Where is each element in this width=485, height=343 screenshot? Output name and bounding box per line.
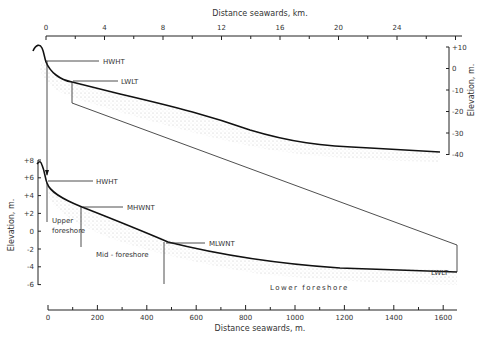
top-x-tick-label: 12 — [217, 24, 226, 32]
upper-foreshore-label: foreshore — [52, 227, 85, 235]
top-x-tick-label: 4 — [102, 24, 107, 32]
bottom-x-tick-label: 400 — [140, 314, 153, 322]
bottom-x-ticks: 02004006008001000120014001600 — [46, 305, 452, 322]
bottom-x-tick-label: 1000 — [286, 314, 304, 322]
top-y-tick-label: -20 — [452, 108, 463, 116]
top-x-tick-label: 24 — [393, 24, 402, 32]
top-x-tick-label: 16 — [276, 24, 285, 32]
mid-foreshore-label: Mid - foreshore — [96, 251, 149, 259]
bottom-x-tick-label: 800 — [239, 314, 252, 322]
top-x-tick-label: 0 — [44, 24, 48, 32]
bottom-x-tick-label: 0 — [46, 314, 50, 322]
top-y-tick-label: -40 — [452, 151, 463, 159]
bottom-y-tick-label: +4 — [24, 192, 35, 200]
beach-profile-diagram: Distance seawards, km. 04812162024 +100-… — [0, 0, 485, 343]
bottom-y-tick-label: -2 — [27, 246, 34, 254]
bottom-y-tick-label: -4 — [27, 263, 35, 271]
bottom-y-tick-label: +2 — [24, 210, 34, 218]
top-x-tick-label: 20 — [334, 24, 343, 32]
top-x-axis-title: Distance seawards, km. — [212, 9, 307, 18]
top-hwht-label: HWHT — [103, 58, 125, 66]
top-y-tick-label: -30 — [452, 130, 463, 138]
top-y-tick-label: +10 — [452, 44, 467, 52]
top-y-tick-label: -10 — [452, 87, 463, 95]
upper-label: Upper — [52, 217, 73, 225]
top-sediment-stipple — [40, 60, 440, 162]
bottom-hwht-label: HWHT — [96, 178, 118, 186]
top-x-ticks: 04812162024 — [44, 24, 456, 40]
bottom-x-tick-label: 1200 — [335, 314, 353, 322]
bottom-x-tick-label: 1600 — [434, 314, 452, 322]
bottom-x-axis-title: Distance seawards, m. — [215, 324, 306, 333]
bottom-y-tick-label: +8 — [24, 157, 34, 165]
bottom-x-tick-label: 1400 — [385, 314, 403, 322]
bottom-x-tick-label: 200 — [91, 314, 104, 322]
top-lwlt-label: LWLT — [121, 78, 139, 86]
bottom-y-tick-label: +6 — [24, 174, 35, 182]
mhwnt-label: MHWNT — [127, 204, 155, 212]
top-x-tick-label: 8 — [161, 24, 165, 32]
bottom-x-tick-label: 600 — [190, 314, 203, 322]
top-y-axis-title: Elevation, m. — [467, 64, 476, 117]
bottom-y-axis-title: Elevation, m. — [7, 199, 16, 252]
lower-foreshore-label: Lower foreshore — [270, 284, 349, 292]
bottom-y-tick-label: 0 — [30, 228, 34, 236]
top-y-tick-label: 0 — [452, 65, 456, 73]
bottom-y-tick-label: -6 — [27, 281, 35, 289]
bottom-lwlt-label: LWLT — [431, 269, 449, 277]
mlwnt-label: MLWNT — [209, 240, 235, 248]
